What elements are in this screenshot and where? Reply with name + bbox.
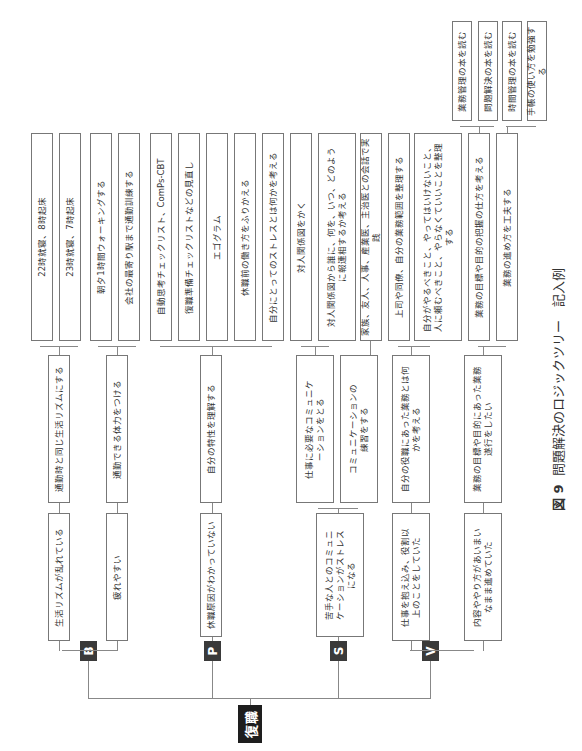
detail-box: 上司や同僚、自分の業務範囲を整理する bbox=[388, 133, 410, 341]
detail-box: 22時就寝、8時起床 bbox=[31, 133, 53, 341]
figure-title: 問題解決のロジックツリー 記入例 bbox=[551, 268, 566, 476]
branch-tag-b: B bbox=[80, 641, 97, 661]
connector bbox=[507, 127, 508, 133]
detail-box: 対人関係図から誰に、何を、いつ、どのように報連相するか考える bbox=[318, 133, 356, 341]
problem-box: 内容ややり方があいまいなまま進めていた bbox=[464, 513, 502, 641]
sub-action-box: 業務の目標や目的の把握の仕方を考える bbox=[468, 133, 490, 341]
detail-box: 朝夕1時間ウォーキングする bbox=[90, 133, 112, 341]
connector bbox=[483, 503, 484, 513]
connector bbox=[117, 641, 118, 651]
connector bbox=[318, 508, 358, 509]
connector bbox=[212, 637, 213, 641]
connector bbox=[40, 346, 78, 347]
detail-box: 対人関係図をかく bbox=[290, 133, 312, 341]
problem-box: 疲れやすい bbox=[106, 513, 128, 641]
problem-box: 苦手な人とのコミュニケーションがストレスになる bbox=[316, 513, 364, 637]
detail-box: 手帳の使い方を勉強する bbox=[527, 21, 547, 121]
figure-caption: 図 9問題解決のロジックツリー 記入例 bbox=[548, 268, 567, 511]
connector bbox=[411, 503, 412, 513]
detail-box: 会社の最寄り駅まで通勤訓練する bbox=[118, 133, 140, 341]
connector bbox=[479, 127, 480, 133]
connector bbox=[301, 346, 329, 347]
root-node: 復職 bbox=[238, 705, 262, 743]
detail-box: 復職準備チェックリストなどの見直し bbox=[178, 133, 200, 341]
connector bbox=[506, 126, 536, 127]
detail-box: 問題解決の本を読む bbox=[478, 21, 498, 121]
connector bbox=[370, 341, 371, 355]
connector bbox=[59, 641, 60, 651]
connector bbox=[338, 509, 339, 513]
connector bbox=[212, 347, 213, 355]
connector bbox=[117, 503, 118, 513]
action-box: 通勤できる体力をつける bbox=[106, 355, 128, 503]
connector bbox=[117, 347, 118, 355]
problem-box: 仕事を抱え込み、役割以上のことをしていた bbox=[392, 513, 430, 641]
branch-tag-s: S bbox=[330, 641, 347, 661]
problem-box: 生活リズムが乱れている bbox=[48, 513, 70, 641]
connector bbox=[398, 346, 430, 347]
logic-tree-diagram: 復職 B 生活リズムが乱れている 疲れやすい 通勤時と同じ生活リズムにする 通勤… bbox=[0, 0, 582, 751]
connector bbox=[59, 347, 60, 355]
connector bbox=[483, 347, 484, 355]
connector bbox=[338, 637, 339, 641]
action-box: 通勤時と同じ生活リズムにする bbox=[48, 355, 70, 503]
connector bbox=[88, 698, 430, 699]
connector bbox=[62, 650, 117, 651]
connector bbox=[88, 661, 89, 699]
connector bbox=[212, 661, 213, 699]
branch-tag-p: P bbox=[204, 641, 221, 661]
connector bbox=[315, 347, 316, 355]
connector bbox=[460, 126, 494, 127]
detail-box: 自分にとってのストレスとは何かを考える bbox=[262, 133, 284, 341]
connector bbox=[411, 347, 412, 355]
connector bbox=[98, 346, 136, 347]
connector bbox=[478, 346, 506, 347]
detail-box: 休職前の働き方をふりかえる bbox=[234, 133, 256, 341]
detail-box: 23時就寝、7時起床 bbox=[59, 133, 81, 341]
branch-tag-v: V bbox=[422, 641, 439, 661]
connector bbox=[483, 641, 484, 651]
connector bbox=[410, 650, 474, 651]
detail-box: 自動思考チェックリスト、ComPs-CBT bbox=[150, 133, 172, 341]
detail-box: 業務管理の本を読む bbox=[452, 21, 472, 121]
connector bbox=[212, 503, 213, 513]
detail-box: 自分がやるべきこと、やってはいけないこと、人に頼むべきこと、やらなくていいことを… bbox=[414, 133, 462, 341]
action-box: 自分の特性を理解する bbox=[200, 355, 222, 503]
connector bbox=[430, 661, 431, 699]
connector bbox=[338, 661, 339, 699]
action-box: 自分の役職にあった業務とは何かを考える bbox=[392, 355, 430, 503]
connector bbox=[411, 641, 412, 651]
problem-box: 休職原因がわかっていない bbox=[200, 513, 222, 637]
detail-box: 時間管理の本を読む bbox=[502, 21, 522, 121]
figure-number: 図 9 bbox=[551, 484, 566, 511]
sub-action-box: 業務の進め方を工夫する bbox=[496, 133, 518, 341]
connector bbox=[59, 503, 60, 513]
detail-box: エゴグラム bbox=[206, 133, 228, 341]
connector bbox=[160, 346, 272, 347]
action-box: 業務の目標や目的にあった業務遂行をしたい bbox=[464, 355, 502, 503]
action-box: 仕事に必要なコミュニケーションをとる bbox=[296, 355, 334, 503]
connector bbox=[250, 699, 251, 705]
detail-box: 家族、友人、人事、産業医、主治医との会話で実践 bbox=[360, 133, 382, 341]
action-box: コミュニケーションの練習をする bbox=[340, 355, 378, 503]
